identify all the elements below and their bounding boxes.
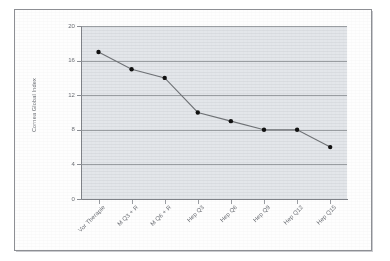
x-tick-mark-1 — [132, 200, 133, 204]
x-tick-mark-6 — [297, 200, 298, 204]
y-tick-label-16-wrap: 16 — [47, 57, 75, 64]
y-tick-label-20-wrap: 20 — [47, 23, 75, 30]
y-tick-label-16: 16 — [49, 57, 75, 64]
y-tick-label-8-wrap: 8 — [47, 126, 75, 133]
y-tick-label-8: 8 — [49, 126, 75, 133]
y-tick-label-0-wrap: 0 — [47, 196, 75, 203]
x-tick-mark-7 — [330, 200, 331, 204]
data-point — [295, 128, 299, 132]
series-cornea-global-index — [82, 26, 347, 199]
y-tick-label-4: 4 — [49, 161, 75, 168]
data-point — [96, 50, 100, 54]
x-label-vor-therapie: Vor Therapie — [77, 204, 106, 233]
data-point — [262, 128, 266, 132]
y-tick-label-0: 0 — [49, 196, 75, 203]
x-tick-mark-0 — [99, 200, 100, 204]
y-tick-label-12: 12 — [49, 92, 75, 99]
series-line — [99, 52, 331, 147]
y-tick-label-20: 20 — [49, 23, 75, 30]
y-tick-label-4-wrap: 4 — [47, 161, 75, 168]
series-markers — [96, 50, 332, 150]
x-label-m-q3-r: M Q3 + R — [116, 204, 139, 227]
screenshot-root: 20 16 12 8 4 0 Cornea Global Index — [0, 0, 390, 261]
x-tick-mark-4 — [231, 200, 232, 204]
x-label-hep-q3: Hep Q3 — [186, 204, 205, 223]
data-point — [163, 76, 167, 80]
data-point — [129, 67, 133, 71]
x-label-hep-q12: Hep Q12 — [283, 204, 305, 226]
x-tick-mark-2 — [165, 200, 166, 204]
x-label-hep-q9: Hep Q9 — [252, 204, 271, 223]
chart-figure: 20 16 12 8 4 0 Cornea Global Index — [15, 10, 373, 252]
x-label-hep-q6: Hep Q6 — [219, 204, 238, 223]
y-axis-title: Cornea Global Index — [31, 57, 37, 153]
x-label-m-q6-r: M Q6 + R — [149, 204, 172, 227]
data-point — [229, 119, 233, 123]
x-tick-mark-3 — [198, 200, 199, 204]
x-tick-mark-5 — [264, 200, 265, 204]
y-tick-label-12-wrap: 12 — [47, 92, 75, 99]
x-label-hep-q15: Hep Q15 — [316, 204, 338, 226]
x-axis-line — [81, 199, 348, 200]
data-point — [328, 145, 332, 149]
y-tick-mark-0 — [77, 199, 82, 200]
scanned-page-frame: 20 16 12 8 4 0 Cornea Global Index — [14, 9, 372, 251]
data-point — [196, 110, 200, 114]
